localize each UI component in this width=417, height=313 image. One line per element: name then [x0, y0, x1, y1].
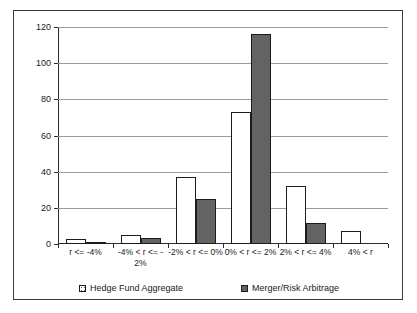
bar — [66, 239, 86, 244]
bar — [196, 199, 216, 244]
x-axis-category-label: 2% < r <= 4% — [278, 247, 333, 258]
bar — [141, 238, 161, 244]
x-axis-category-label: r <= -4% — [58, 247, 113, 258]
legend-entry: Hedge Fund Aggregate — [79, 283, 183, 293]
chart-frame: 020406080100120 r <= -4%-4% < r <= -2%-2… — [13, 10, 403, 300]
x-axis-category-line: 4% < r — [333, 247, 388, 258]
legend-swatch-icon — [79, 285, 86, 292]
x-axis-category-line: 2% < r <= 4% — [278, 247, 333, 258]
legend-label: Merger/Risk Arbitrage — [252, 283, 339, 293]
bar — [286, 186, 306, 244]
x-axis-category-label: 4% < r — [333, 247, 388, 258]
x-axis-category-line: -4% < r <= - — [113, 247, 168, 258]
x-axis-category-line: 2% — [113, 258, 168, 269]
bar — [341, 231, 361, 244]
bar-group — [223, 27, 278, 244]
bar-group — [333, 27, 388, 244]
plot-area: 020406080100120 — [58, 27, 388, 244]
y-axis-tick-label: 0 — [46, 239, 51, 249]
x-axis-tick — [388, 244, 389, 248]
bar — [251, 34, 271, 244]
x-axis-category-line: -2% < r <= 0% — [168, 247, 223, 258]
bar-group — [113, 27, 168, 244]
y-axis-tick-label: 120 — [36, 22, 51, 32]
y-axis-tick-label: 20 — [41, 203, 51, 213]
legend-swatch-icon — [241, 285, 248, 292]
bar-group — [278, 27, 333, 244]
bar-series-container — [58, 27, 388, 244]
y-axis-tick-label: 100 — [36, 58, 51, 68]
x-axis-category-label: -4% < r <= -2% — [113, 247, 168, 269]
legend-entry: Merger/Risk Arbitrage — [241, 283, 339, 293]
x-axis-category-label: 0% < r <= 2% — [223, 247, 278, 258]
y-axis-tick-label: 80 — [41, 94, 51, 104]
bar — [121, 235, 141, 244]
bar — [86, 242, 106, 244]
x-axis-category-label: -2% < r <= 0% — [168, 247, 223, 258]
y-axis-tick-label: 40 — [41, 167, 51, 177]
y-axis-tick-label: 60 — [41, 131, 51, 141]
bar — [306, 223, 326, 244]
legend-label: Hedge Fund Aggregate — [90, 283, 183, 293]
chart-legend: Hedge Fund AggregateMerger/Risk Arbitrag… — [14, 283, 404, 293]
x-axis-category-labels: r <= -4%-4% < r <= -2%-2% < r <= 0%0% < … — [58, 247, 388, 281]
x-axis-category-line: 0% < r <= 2% — [223, 247, 278, 258]
x-axis-category-line: r <= -4% — [58, 247, 113, 258]
bar-group — [168, 27, 223, 244]
bar — [176, 177, 196, 244]
bar-group — [58, 27, 113, 244]
bar — [231, 112, 251, 244]
